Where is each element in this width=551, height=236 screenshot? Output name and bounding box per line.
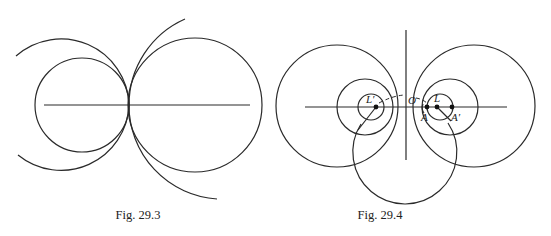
point-A-prime (450, 105, 455, 110)
label-L: L (433, 92, 440, 104)
fig-29-3-diagram: Fig. 29.3 (16, 19, 262, 222)
label-A: A (420, 111, 428, 123)
right-large-circle (413, 45, 535, 167)
label-O: O (408, 94, 416, 106)
dashed-arc-right (416, 98, 427, 103)
left-radius-line (358, 107, 376, 130)
caption-fig-29-3: Fig. 29.3 (116, 208, 161, 222)
caption-fig-29-4: Fig. 29.4 (358, 208, 404, 222)
fig-29-4-diagram: L′ O L A A′ Fig. 29.4 (276, 30, 535, 222)
label-A-prime: A′ (450, 111, 461, 123)
label-L-prime: L′ (365, 93, 375, 105)
point-L-prime (374, 105, 379, 110)
figure-canvas: Fig. 29.3 L′ O L A A′ Fig. 2 (0, 0, 551, 236)
point-L (435, 105, 440, 110)
point-A (425, 105, 430, 110)
